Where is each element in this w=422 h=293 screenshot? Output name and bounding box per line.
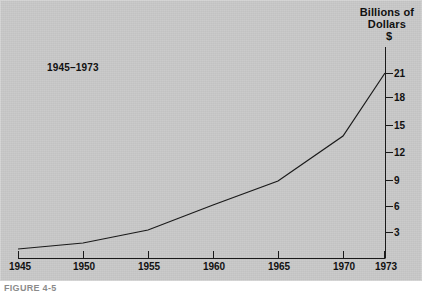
y-tick-label-3: 3 bbox=[394, 228, 400, 238]
chart-annotation-year-range: 1945–1973 bbox=[47, 62, 99, 73]
y-axis-title-line1: Billions of bbox=[360, 6, 414, 18]
x-tick-label-1973: 1973 bbox=[375, 262, 397, 272]
x-tick-label-1965: 1965 bbox=[268, 262, 290, 272]
y-axis-currency-symbol: $ bbox=[386, 31, 392, 42]
x-tick-label-1960: 1960 bbox=[203, 262, 225, 272]
y-tick-label-12: 12 bbox=[394, 148, 405, 158]
y-tick-marks bbox=[386, 74, 393, 233]
figure-screenshot: Billions ofDollars $ 1945–1973 3 6 9 12 … bbox=[0, 0, 422, 293]
y-tick-label-21: 21 bbox=[394, 69, 405, 79]
x-tick-marks bbox=[19, 251, 385, 258]
x-tick-label-1970: 1970 bbox=[333, 262, 355, 272]
line-chart-plot bbox=[0, 0, 422, 281]
y-axis-title-line2: Dollars bbox=[368, 18, 406, 30]
y-tick-label-18: 18 bbox=[394, 93, 405, 103]
y-tick-label-6: 6 bbox=[394, 202, 400, 212]
figure-caption: FIGURE 4-5 bbox=[4, 283, 57, 293]
x-tick-label-1955: 1955 bbox=[138, 262, 160, 272]
x-tick-label-1950: 1950 bbox=[73, 262, 95, 272]
x-tick-label-1945: 1945 bbox=[9, 262, 31, 272]
y-tick-label-9: 9 bbox=[394, 176, 400, 186]
data-line-billions-of-dollars bbox=[18, 73, 385, 249]
y-axis-title: Billions ofDollars bbox=[360, 6, 414, 30]
y-tick-label-15: 15 bbox=[394, 121, 405, 131]
